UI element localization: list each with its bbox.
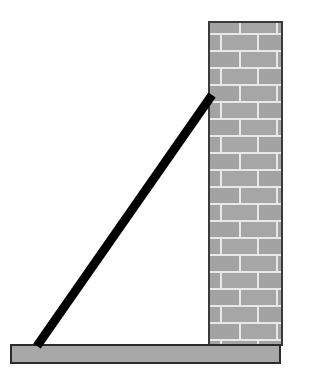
ground-slab-body bbox=[11, 345, 280, 363]
diagram-canvas bbox=[0, 0, 311, 386]
ground-slab bbox=[11, 345, 280, 363]
brick-wall-texture bbox=[209, 22, 282, 345]
diagram-svg bbox=[0, 0, 311, 386]
ladder-beam bbox=[37, 95, 212, 346]
brick-wall bbox=[209, 22, 282, 345]
